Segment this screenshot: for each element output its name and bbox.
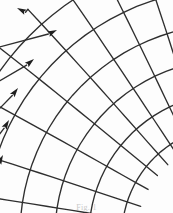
figure-caption: Fig. 1 bbox=[0, 203, 173, 212]
figure-background bbox=[0, 0, 173, 213]
coordinate-net-diagram bbox=[0, 0, 173, 213]
figure-container: Fig. 1 bbox=[0, 0, 173, 213]
